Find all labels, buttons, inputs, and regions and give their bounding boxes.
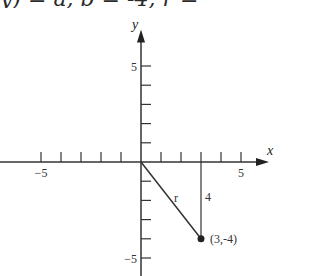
y-tick-label: 5 — [131, 60, 137, 74]
point-marker — [198, 235, 205, 242]
coordinate-diagram: x y (3,-4) r 4 −555−5 — [0, 0, 309, 276]
point-label: (3,-4) — [210, 232, 237, 246]
y-axis-label: y — [130, 17, 139, 32]
x-tick-label: −5 — [35, 166, 48, 180]
vertical-leg-label: 4 — [205, 190, 211, 204]
radius-label: r — [174, 191, 178, 205]
x-axis-label: x — [266, 143, 274, 158]
x-axis-arrow-icon — [256, 158, 269, 166]
x-tick-label: 5 — [238, 166, 244, 180]
y-tick-label: −5 — [124, 252, 137, 266]
